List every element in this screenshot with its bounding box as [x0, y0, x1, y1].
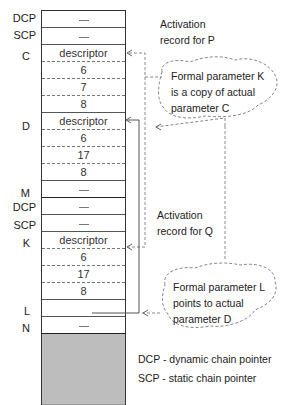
- activation-record-p-label: Activation record for P: [160, 16, 215, 48]
- annotation-line: parameter C: [171, 100, 264, 116]
- copy-arrow-k-to-c: [127, 53, 145, 247]
- annotation-line: Formal parameter L: [173, 279, 265, 295]
- annotation-line: parameter D: [173, 311, 265, 327]
- annotation-line: Formal parameter K: [171, 68, 264, 84]
- annotation-line: record for P: [160, 32, 215, 48]
- annotation-line: is a copy of actual: [171, 84, 264, 100]
- legend-dcp: DCP - dynamic chain pointer: [138, 350, 271, 369]
- annotation-line: record for Q: [157, 223, 213, 239]
- legend-scp: SCP - static chain pointer: [138, 369, 271, 388]
- cloud-k-text: Formal parameter K is a copy of actual p…: [171, 68, 264, 116]
- annotation-line: points to actual: [173, 295, 265, 311]
- cloud-l-text: Formal parameter L points to actual para…: [173, 279, 265, 327]
- legend: DCP - dynamic chain pointer SCP - static…: [138, 350, 271, 388]
- activation-record-q-label: Activation record for Q: [157, 207, 213, 239]
- annotation-line: Activation: [157, 207, 213, 223]
- pointer-arrow-l-to-d: [92, 120, 139, 313]
- annotation-line: Activation: [160, 16, 215, 32]
